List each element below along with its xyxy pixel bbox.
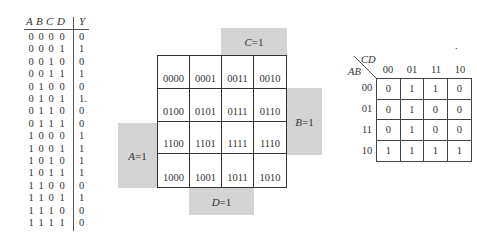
output-divider — [73, 17, 74, 231]
input-value: 1 — [46, 118, 56, 130]
output-value: 1 — [79, 130, 89, 142]
input-value: 1 — [36, 205, 46, 217]
input-value: 1 — [46, 68, 56, 80]
input-value: 1 — [36, 118, 46, 130]
kmap-col-label: 01 — [400, 64, 424, 75]
kmap-cell: 0 — [377, 100, 401, 121]
kmap-cell: 0 — [377, 79, 401, 100]
minterm-code: 0101 — [190, 106, 221, 117]
minterm-code: 0011 — [222, 73, 253, 84]
minterm-karnaugh-map: 0000000100110010010001010111011011001101… — [157, 55, 287, 188]
karnaugh-map: 0110010001001111 — [376, 78, 472, 162]
input-value: 0 — [46, 180, 56, 192]
stray-mark: . — [455, 40, 458, 51]
input-value: 1 — [26, 155, 36, 167]
minterm-cell: 1010 — [254, 154, 286, 187]
kmap-cell: 1 — [424, 141, 448, 162]
input-value: 1 — [57, 68, 67, 80]
minterm-cell: 1100 — [158, 122, 190, 155]
input-value: 0 — [36, 130, 46, 142]
output-value: 0 — [79, 81, 89, 93]
minterm-cell: 0001 — [190, 56, 222, 89]
minterm-code: 0010 — [254, 73, 286, 84]
output-value: 1 — [79, 143, 89, 155]
kmap-cell: 1 — [377, 141, 401, 162]
region-d-label: D=1 — [189, 188, 254, 215]
input-value: 0 — [26, 31, 36, 43]
output-value: 1 — [79, 43, 89, 55]
input-value: 1 — [26, 143, 36, 155]
output-value: 1 — [79, 68, 89, 80]
input-value: 1 — [46, 56, 56, 68]
minterm-code: 0000 — [158, 73, 189, 84]
input-value: 0 — [26, 68, 36, 80]
output-value: 1 — [79, 155, 89, 167]
output-value: 1. — [79, 93, 89, 105]
minterm-code: 0100 — [158, 106, 189, 117]
minterm-code: 1001 — [190, 172, 221, 183]
input-value: 0 — [36, 56, 46, 68]
column-header-b: B — [36, 15, 43, 28]
kmap-corner-label: CD AB — [352, 56, 378, 80]
input-value: 1 — [26, 130, 36, 142]
input-value: 1 — [46, 217, 56, 229]
output-value: 1 — [79, 192, 89, 204]
input-value: 1 — [46, 205, 56, 217]
kmap-col-label: 11 — [424, 64, 448, 75]
input-value: 1 — [26, 205, 36, 217]
input-value: 1 — [26, 180, 36, 192]
minterm-code: 1101 — [190, 138, 221, 149]
output-value: 1 — [79, 167, 89, 179]
region-b-label: B=1 — [287, 88, 322, 155]
kmap-row-label: 11 — [360, 124, 374, 135]
input-value: 1 — [36, 93, 46, 105]
input-value: 0 — [46, 43, 56, 55]
minterm-cell: 0110 — [254, 89, 286, 122]
input-value: 1 — [57, 143, 67, 155]
kmap-cell: 0 — [377, 120, 401, 141]
input-value: 0 — [57, 155, 67, 167]
input-value: 1 — [57, 43, 67, 55]
input-value: 0 — [36, 31, 46, 43]
input-value: 0 — [26, 43, 36, 55]
kmap-cell: 1 — [401, 79, 425, 100]
input-value: 1 — [36, 81, 46, 93]
kmap-cell: 1 — [401, 100, 425, 121]
input-value: 0 — [36, 43, 46, 55]
kmap-cell: 0 — [448, 120, 472, 141]
minterm-cell: 1101 — [190, 122, 222, 155]
minterm-cell: 0101 — [190, 89, 222, 122]
input-value: 0 — [57, 105, 67, 117]
input-value: 1 — [46, 105, 56, 117]
kmap-cell: 0 — [424, 120, 448, 141]
kmap-cell: 0 — [424, 100, 448, 121]
input-value: 0 — [26, 105, 36, 117]
kmap-cell: 1 — [401, 141, 425, 162]
minterm-cell: 0000 — [158, 56, 190, 89]
minterm-cell: 1110 — [254, 122, 286, 155]
input-value: 0 — [57, 56, 67, 68]
input-value: 0 — [46, 130, 56, 142]
input-value: 0 — [36, 143, 46, 155]
input-value: 0 — [46, 81, 56, 93]
column-header-y: Y — [79, 15, 85, 28]
row-var-label: AB — [348, 66, 361, 77]
input-value: 0 — [26, 56, 36, 68]
input-value: 1 — [57, 217, 67, 229]
input-value: 0 — [36, 68, 46, 80]
input-value: 1 — [57, 118, 67, 130]
input-value: 1 — [36, 217, 46, 229]
output-value: 0 — [79, 217, 89, 229]
minterm-cell: 0111 — [222, 89, 254, 122]
minterm-code: 1110 — [254, 138, 286, 149]
minterm-cell: 0100 — [158, 89, 190, 122]
input-value: 0 — [46, 93, 56, 105]
input-value: 1 — [26, 192, 36, 204]
minterm-code: 1100 — [158, 138, 189, 149]
kmap-cell: 0 — [448, 79, 472, 100]
kmap-cell: 1 — [401, 120, 425, 141]
input-value: 1 — [26, 167, 36, 179]
output-value: 0 — [79, 56, 89, 68]
input-value: 0 — [36, 167, 46, 179]
minterm-cell: 1001 — [190, 154, 222, 187]
